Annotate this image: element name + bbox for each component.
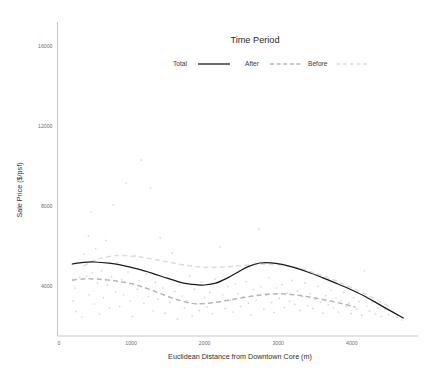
scatter-point [212, 313, 214, 315]
scatter-point [81, 316, 83, 318]
scatter-point [276, 287, 278, 289]
scatter-point [99, 313, 101, 315]
scatter-point [214, 278, 216, 280]
scatter-point [88, 294, 90, 296]
scatter-point [129, 300, 131, 302]
scatter-point [309, 293, 311, 295]
y-tick-label: 4000 [41, 283, 53, 289]
scatter-point [201, 281, 203, 283]
x-tick-label: 1000 [125, 340, 137, 346]
scatter-point [358, 301, 360, 303]
scatter-point [374, 313, 376, 315]
scatter-point [384, 309, 386, 311]
scatter-point [74, 287, 76, 289]
scatter-point [83, 253, 85, 255]
scatter-point [366, 305, 368, 307]
scatter-point [338, 311, 340, 313]
y-axis-title: Sale Price ($/psf) [15, 162, 24, 217]
scatter-point [152, 310, 154, 312]
scatter-point [121, 279, 123, 281]
plot-background [0, 0, 430, 379]
scatter-point [271, 302, 273, 304]
scatter-point [206, 306, 208, 308]
scatter-point [250, 314, 252, 316]
scatter-point [86, 275, 88, 277]
scatter-point [260, 286, 262, 288]
scatter-point [155, 282, 157, 284]
scatter-point [380, 316, 382, 318]
scatter-point [169, 302, 171, 304]
scatter-point [162, 287, 164, 289]
scatter-point [253, 289, 255, 291]
scatter-point [235, 283, 237, 285]
scatter-point [132, 316, 134, 318]
scatter-point [159, 237, 161, 239]
scatter-point [184, 307, 186, 309]
scatter-point [307, 305, 309, 307]
y-tick-label: 16000 [38, 43, 53, 49]
scatter-point [333, 307, 335, 309]
scatter-point [109, 307, 111, 309]
legend-label-total: Total [173, 60, 187, 67]
x-tick-label: 4000 [346, 340, 358, 346]
scatter-point [289, 300, 291, 302]
scatter-point [113, 204, 115, 206]
scatter-point [193, 288, 195, 290]
scatter-point [320, 302, 322, 304]
scatter-point [296, 290, 298, 292]
scatter-point [273, 312, 275, 314]
scatter-point [363, 270, 365, 272]
scatter-point [164, 313, 166, 315]
scatter-point [189, 276, 191, 278]
scatter-point [230, 299, 232, 301]
scatter-point [72, 300, 74, 302]
scatter-point [294, 304, 296, 306]
scatter-plot-svg: 400080001200016000 01000200030004000 Sal… [0, 0, 430, 379]
scatter-point [90, 211, 92, 213]
scatter-point [177, 318, 179, 320]
legend-label-after: After [245, 60, 260, 67]
scatter-point [278, 298, 280, 300]
scatter-point [335, 297, 337, 299]
scatter-point [397, 317, 399, 319]
scatter-point [263, 308, 265, 310]
scatter-point [204, 297, 206, 299]
x-axis-title: Euclidean Distance from Downtown Core (m… [168, 352, 312, 361]
scatter-point [125, 182, 127, 184]
scatter-point [361, 314, 363, 316]
scatter-point [248, 302, 250, 304]
scatter-point [291, 280, 293, 282]
scatter-point [115, 291, 117, 293]
scatter-point [219, 246, 221, 248]
scatter-point [150, 187, 152, 189]
scatter-point [127, 271, 129, 273]
y-tick-label: 12000 [38, 123, 53, 129]
scatter-point [119, 306, 121, 308]
scatter-point [95, 248, 97, 250]
scatter-point [181, 295, 183, 297]
scatter-point [401, 319, 403, 321]
scatter-point [79, 277, 81, 279]
scatter-point [340, 300, 342, 302]
chart-figure: 400080001200016000 01000200030004000 Sal… [0, 0, 430, 379]
scatter-point [138, 280, 140, 282]
scatter-point [388, 314, 390, 316]
scatter-point [353, 297, 355, 299]
scatter-point [356, 308, 358, 310]
scatter-point [237, 293, 239, 295]
scatter-point [88, 235, 90, 237]
scatter-point [255, 299, 257, 301]
scatter-point [107, 284, 109, 286]
scatter-point [377, 307, 379, 309]
x-tick-label: 3000 [272, 340, 284, 346]
scatter-point [103, 297, 105, 299]
scatter-point [93, 303, 95, 305]
scatter-point [330, 289, 332, 291]
scatter-point [105, 240, 107, 242]
scatter-point [345, 306, 347, 308]
scatter-point [281, 284, 283, 286]
scatter-point [222, 294, 224, 296]
scatter-point [369, 310, 371, 312]
scatter-point [343, 292, 345, 294]
scatter-point [117, 262, 119, 264]
